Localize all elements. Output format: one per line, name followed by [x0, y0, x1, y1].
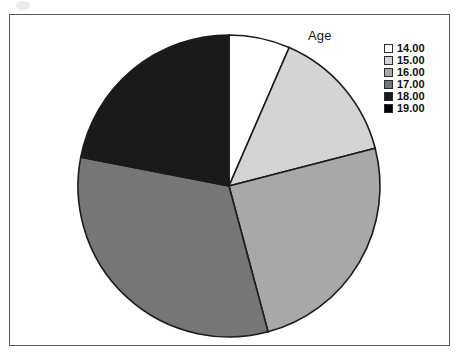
legend-item[interactable]: 14.00: [384, 43, 446, 54]
pie-slice[interactable]: [229, 35, 289, 186]
pie-slice[interactable]: [81, 35, 229, 186]
legend-item[interactable]: 18.00: [384, 91, 446, 102]
chart-frame: Age 14.0015.0016.0017.0018.0019.00: [9, 14, 450, 346]
legend-label: 17.00: [397, 79, 425, 90]
pie-slices: [78, 35, 380, 337]
legend-label: 19.00: [397, 103, 425, 114]
pie-slice[interactable]: [229, 48, 375, 186]
legend-label: 14.00: [397, 43, 425, 54]
legend-swatch-icon: [384, 104, 393, 113]
legend-swatch-icon: [384, 56, 393, 65]
legend-swatch-icon: [384, 68, 393, 77]
legend-swatch-icon: [384, 80, 393, 89]
pie-slice[interactable]: [78, 157, 268, 337]
legend-label: 18.00: [397, 91, 425, 102]
chart-title: Age: [308, 28, 332, 43]
legend-item[interactable]: 15.00: [384, 55, 446, 66]
legend-label: 15.00: [397, 55, 425, 66]
legend-swatch-icon: [384, 44, 393, 53]
legend-item[interactable]: 19.00: [384, 103, 446, 114]
legend: 14.0015.0016.0017.0018.0019.00: [384, 43, 446, 115]
pie-slice[interactable]: [229, 148, 380, 332]
legend-label: 16.00: [397, 67, 425, 78]
legend-swatch-icon: [384, 92, 393, 101]
legend-item[interactable]: 17.00: [384, 79, 446, 90]
scan-artifact: [16, 1, 30, 10]
legend-item[interactable]: 16.00: [384, 67, 446, 78]
